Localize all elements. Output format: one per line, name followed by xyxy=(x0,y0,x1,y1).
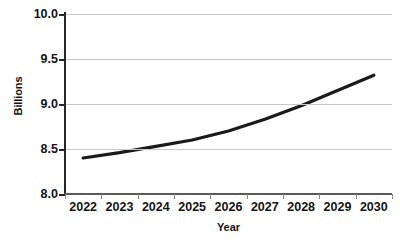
x-axis-tick-mark xyxy=(138,194,139,199)
gridline xyxy=(65,14,392,15)
y-axis-tick-label: 9.0 xyxy=(24,98,58,111)
x-axis-tick-label: 2023 xyxy=(101,201,137,214)
x-axis-tick-label: 2022 xyxy=(65,201,101,214)
x-axis-tick-labels: 202220232024202520262027202820292030 xyxy=(65,201,392,219)
x-axis-tick-mark xyxy=(319,194,320,199)
x-axis-tick-mark xyxy=(283,194,284,199)
y-axis-tick-mark xyxy=(59,14,66,16)
x-axis-tick-label: 2030 xyxy=(356,201,392,214)
gridline xyxy=(65,149,392,150)
x-axis-tick-mark xyxy=(210,194,211,199)
x-axis-tick-mark xyxy=(356,194,357,199)
y-axis-tick-mark xyxy=(59,149,66,151)
y-axis-tick-label: 8.5 xyxy=(24,143,58,156)
x-axis-tick-label: 2029 xyxy=(319,201,355,214)
x-axis-tick-mark xyxy=(392,194,393,199)
gridline xyxy=(65,194,392,195)
plot-area xyxy=(65,14,392,194)
x-axis-tick-mark xyxy=(101,194,102,199)
line-chart: Billions 10.09.59.08.58.0 20222023202420… xyxy=(0,0,402,247)
x-axis-title: Year xyxy=(65,221,392,233)
y-axis-tick-label: 9.5 xyxy=(24,53,58,66)
y-axis-tick-labels: 10.09.59.08.58.0 xyxy=(16,0,58,247)
y-axis-tick-mark xyxy=(59,104,66,106)
x-axis-tick-label: 2027 xyxy=(247,201,283,214)
x-axis-tick-label: 2028 xyxy=(283,201,319,214)
y-axis-tick-mark xyxy=(59,59,66,61)
x-axis-tick-label: 2026 xyxy=(210,201,246,214)
x-axis-tick-label: 2025 xyxy=(174,201,210,214)
gridline xyxy=(65,59,392,60)
y-axis-tick-label: 8.0 xyxy=(24,188,58,201)
x-axis-tick-mark xyxy=(174,194,175,199)
gridline xyxy=(65,104,392,105)
x-axis-tick-label: 2024 xyxy=(138,201,174,214)
y-axis-tick-label: 10.0 xyxy=(24,8,58,21)
x-axis-tick-mark xyxy=(65,194,66,199)
x-axis-tick-mark xyxy=(247,194,248,199)
